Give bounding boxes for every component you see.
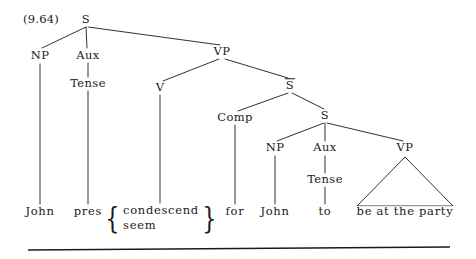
- node-np-2: NP: [264, 142, 287, 154]
- tree-edge-s-embedded-to-np-2: [277, 123, 324, 141]
- tree-edge-vp-1-to-sbar: [225, 59, 288, 78]
- syntax-tree-figure: (9.64) SNPAuxVPTenseVSCompSNPAuxVPTense …: [0, 0, 476, 259]
- node-v-1: V: [154, 82, 167, 94]
- tree-edge-sbar-to-s-embedded: [292, 93, 324, 109]
- alternation-options: condescend seem: [122, 204, 200, 233]
- node-s-root: S: [80, 14, 92, 26]
- leaf-be-party: be at the party: [355, 206, 456, 218]
- node-aux-2: Aux: [311, 142, 338, 154]
- node-sbar: S: [284, 80, 296, 92]
- tree-line-layer: [0, 0, 476, 259]
- vp-triangle: [357, 157, 453, 206]
- node-comp: Comp: [215, 112, 255, 124]
- tree-edge-s-root-to-np-1: [42, 27, 86, 48]
- leaf-john-1: John: [23, 206, 56, 218]
- node-vp-1: VP: [212, 46, 233, 58]
- tree-edge-vp-1-to-v-1: [163, 59, 219, 81]
- tree-edge-s-root-to-aux-1: [86, 27, 87, 48]
- example-number: (9.64): [21, 14, 61, 26]
- leaf-john-2: John: [258, 206, 291, 218]
- open-brace: {: [105, 204, 119, 233]
- node-aux-1: Aux: [74, 50, 101, 62]
- verb-alternation-set: { condescend seem }: [102, 204, 220, 233]
- close-brace: }: [202, 204, 216, 233]
- alternation-option-0: condescend: [123, 205, 199, 217]
- node-label-text: S: [286, 80, 294, 92]
- leaf-pres: pres: [72, 206, 104, 218]
- tree-edge-s-root-to-vp-1: [88, 27, 220, 45]
- alternation-option-1: seem: [123, 220, 199, 232]
- node-vp-2: VP: [395, 142, 416, 154]
- bottom-rule: [28, 247, 450, 250]
- leaf-to: to: [317, 206, 334, 218]
- leaf-for: for: [224, 206, 247, 218]
- tree-edge-s-embedded-to-vp-2: [327, 123, 403, 141]
- node-s-embedded: S: [319, 110, 331, 122]
- node-tense-1: Tense: [68, 78, 108, 90]
- node-np-1: NP: [29, 50, 52, 62]
- node-tense-2: Tense: [305, 174, 345, 186]
- tree-edge-sbar-to-comp: [238, 93, 288, 111]
